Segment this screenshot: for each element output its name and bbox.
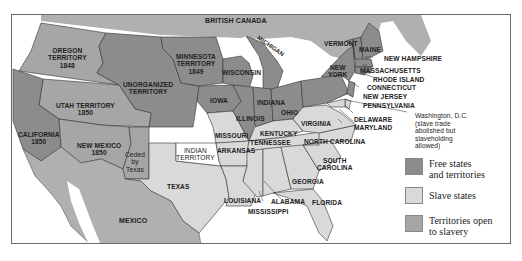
label-rhode-island: RHODE ISLAND: [373, 76, 424, 83]
label-tennessee: TENNESSEE: [250, 139, 291, 146]
label-utah-territory: UTAH TERRITORY 1850: [56, 102, 115, 117]
legend-swatch-slave: [405, 187, 423, 204]
label-minnesota-territory: MINNESOTA TERRITORY 1849: [176, 53, 216, 75]
legend-item-territories-open: Territories open to slavery: [405, 215, 509, 237]
legend-item-slave: Slave states: [405, 187, 509, 204]
label-virginia: VIRGINIA: [301, 120, 331, 127]
label-louisiana: LOUISIANA: [224, 197, 261, 204]
annotation-washington-dc: Washington, D.C. (slave trade abolished …: [415, 112, 468, 150]
label-indiana: INDIANA: [257, 99, 285, 106]
legend-item-free: Free states and territories: [405, 158, 509, 180]
label-new-mexico: NEW MEXICO 1850: [77, 142, 121, 157]
label-oregon-territory: OREGON TERRITORY 1848: [48, 47, 87, 69]
label-illinois: ILLINOIS: [236, 115, 265, 122]
label-maryland: MARYLAND: [354, 124, 392, 131]
label-north-carolina: NORTH CAROLINA: [304, 138, 365, 145]
region-massachusetts: [355, 59, 373, 67]
label-wisconsin: WISCONSIN: [222, 69, 261, 76]
label-alabama: ALABAMA: [271, 198, 305, 205]
label-california: CALIFORNIA 1850: [18, 131, 60, 146]
label-unorganized-territory: UNORGANIZED TERRITORY: [123, 81, 173, 96]
label-florida: FLORIDA: [312, 199, 342, 206]
label-pennsylvania: PENNSYLVANIA: [363, 102, 415, 109]
label-south-carolina: SOUTH CAROLINA: [317, 157, 353, 172]
label-massachusetts: MASSACHUSETTS: [360, 67, 421, 74]
label-maine: MAINE: [359, 46, 381, 53]
label-new-york: NEW YORK: [328, 64, 347, 79]
map-frame: BRITISH CANADA OREGON TERRITORY 1848 MIN…: [11, 14, 511, 244]
label-ohio: OHIO: [281, 109, 298, 116]
label-missouri: MISSOURI: [215, 132, 248, 139]
label-kentucky: KENTUCKY: [260, 130, 297, 137]
label-indian-territory: INDIAN TERRITORY: [176, 147, 215, 162]
label-connecticut: CONNECTICUT: [367, 84, 416, 91]
label-ceded-by-texas: Ceded by Texas: [125, 151, 145, 173]
label-arkansas: ARKANSAS: [217, 147, 255, 154]
label-mississippi: MISSISSIPPI: [248, 208, 288, 215]
label-georgia: GEORGIA: [292, 178, 324, 185]
legend-swatch-free: [405, 158, 423, 175]
label-vermont: VERMONT: [324, 40, 358, 47]
label-iowa: IOWA: [210, 97, 228, 104]
legend-swatch-territories-open: [405, 215, 423, 232]
label-new-jersey: NEW JERSEY: [363, 93, 407, 100]
label-new-hampshire: NEW HAMPSHIRE: [384, 55, 442, 62]
label-british-canada: BRITISH CANADA: [205, 17, 267, 25]
label-delaware: DELAWARE: [354, 116, 392, 123]
label-mexico: MEXICO: [119, 217, 147, 225]
label-texas: TEXAS: [167, 183, 189, 190]
